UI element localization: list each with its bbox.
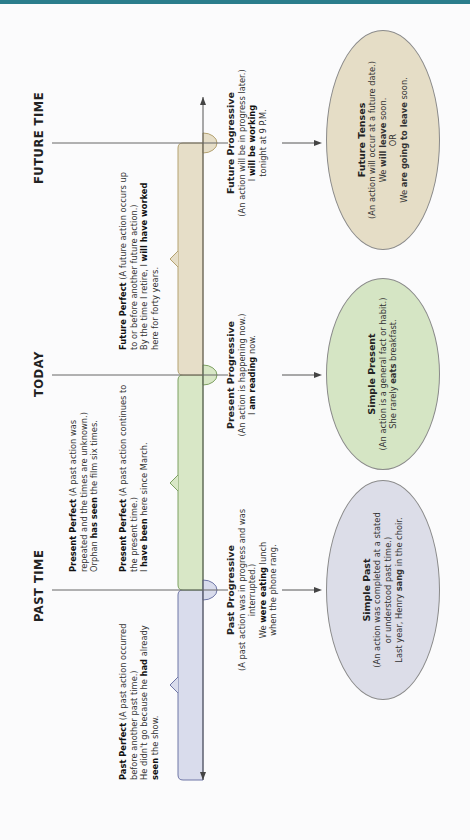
axis-arrow-future — [200, 97, 206, 105]
header-past-time: PAST TIME — [32, 550, 46, 622]
future-tenses-ellipse: Future Tenses (An action will occur at a… — [326, 30, 440, 250]
arrow-to-future-tenses — [314, 140, 322, 146]
future-progressive-block: Future Progressive (An action will be in… — [226, 58, 268, 228]
arrow-to-simple-past — [314, 587, 322, 593]
present-brace-tip — [170, 475, 178, 491]
present-perfect-repeated-block: Present Perfect (A past action was repea… — [68, 382, 100, 572]
future-perfect-block: Future Perfect (A future action occurs u… — [118, 170, 160, 350]
past-perfect-block: Past Perfect (A past action occurred bef… — [118, 610, 160, 780]
header-future-time: FUTURE TIME — [32, 92, 46, 184]
simple-present-ellipse: Simple Present (An action is a general f… — [326, 278, 440, 470]
past-perfect-bracket — [178, 590, 203, 780]
present-progressive-block: Present Progressive (An action is happen… — [226, 295, 258, 455]
tense-timeline-diagram: PAST TIME TODAY FUTURE TIME Past Perfect… — [0, 0, 470, 840]
present-perfect-continues-block: Present Perfect (A past action continues… — [118, 382, 150, 572]
past-progressive-block: Past Progressive (A past action was in p… — [226, 500, 279, 680]
present-perfect-bracket — [178, 375, 203, 590]
arrow-to-simple-present — [314, 372, 322, 378]
simple-past-ellipse: Simple Past (An action was completed at … — [326, 480, 440, 700]
future-perfect-bracket — [178, 143, 203, 375]
past-brace-tip — [170, 677, 178, 693]
header-today: TODAY — [32, 351, 46, 397]
future-brace-tip — [170, 251, 178, 267]
